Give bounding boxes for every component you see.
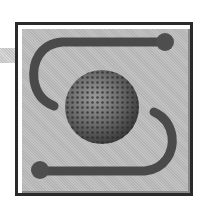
sphere-icon xyxy=(65,70,139,144)
globe-swap-icon xyxy=(0,0,202,200)
